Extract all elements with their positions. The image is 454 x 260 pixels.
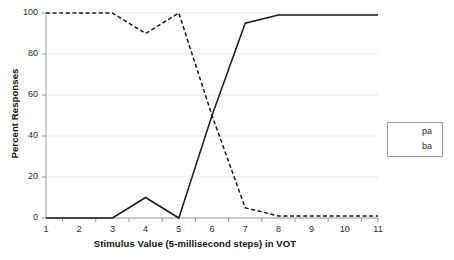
data-series-group [46, 13, 378, 218]
x-tick-label: 3 [98, 224, 126, 234]
x-tick-label: 5 [165, 224, 193, 234]
x-tick-label: 7 [231, 224, 259, 234]
series-line-ba [46, 13, 378, 216]
legend-item-ba: ba [388, 140, 444, 155]
chart-legend: pa ba [387, 122, 443, 157]
y-tick-marks-group [42, 13, 46, 218]
legend-label-pa: pa [422, 126, 432, 136]
chart-figure: 020406080100 1234567891011 Percent Respo… [0, 0, 454, 260]
x-tick-label: 8 [264, 224, 292, 234]
legend-label-ba: ba [422, 141, 432, 151]
x-tick-label: 9 [298, 224, 326, 234]
y-axis-title: Percent Responses [9, 54, 20, 174]
y-tick-label: 100 [8, 7, 38, 17]
x-tick-label: 11 [364, 224, 392, 234]
x-axis-title: Stimulus Value (5-millisecond steps) in … [0, 238, 390, 249]
y-tick-label: 0 [8, 212, 38, 222]
x-tick-label: 2 [65, 224, 93, 234]
x-tick-label: 1 [32, 224, 60, 234]
legend-item-pa: pa [388, 125, 444, 140]
x-tick-label: 10 [331, 224, 359, 234]
line-chart-canvas [0, 0, 454, 260]
x-tick-label: 4 [132, 224, 160, 234]
x-tick-label: 6 [198, 224, 226, 234]
